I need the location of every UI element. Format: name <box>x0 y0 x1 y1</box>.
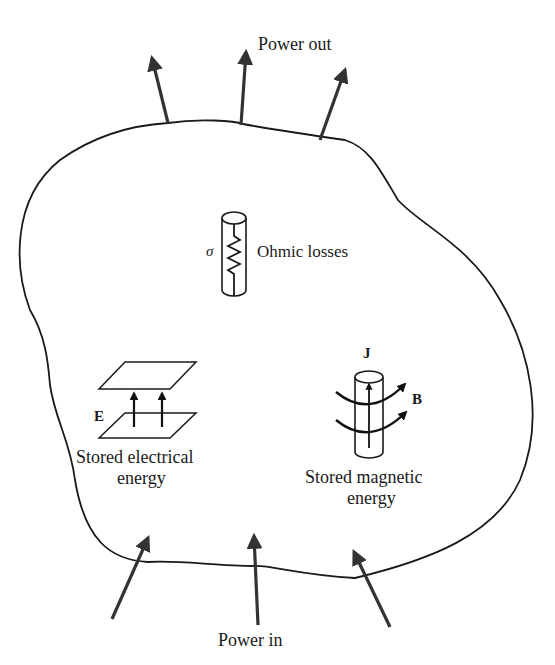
energy-flow-diagram: Power out Power in σ Ohmic losses E Stor… <box>0 0 555 665</box>
power-out-arrows <box>152 52 345 140</box>
arrow-out-1 <box>152 58 168 123</box>
arrow-out-2 <box>241 52 246 125</box>
arrow-out-3 <box>320 70 345 140</box>
e-field-label: E <box>94 408 104 424</box>
magnetic-field-label: B <box>412 391 422 407</box>
stored-electrical-label-1: Stored electrical <box>76 447 193 467</box>
stored-magnetic-label-1: Stored magnetic <box>305 467 422 487</box>
resistor-cylinder-icon <box>222 212 246 296</box>
volume-boundary <box>20 120 533 578</box>
capacitor-plates-icon <box>99 362 196 438</box>
stored-electrical-label-2: energy <box>117 468 166 488</box>
arrow-in-2 <box>254 536 258 625</box>
sigma-label: σ <box>206 243 214 259</box>
ohmic-losses-label: Ohmic losses <box>257 242 348 261</box>
power-in-arrows <box>112 536 390 627</box>
arrow-in-1 <box>112 538 148 619</box>
power-in-label: Power in <box>218 630 283 650</box>
arrow-in-3 <box>354 552 390 627</box>
current-cylinder-icon <box>336 371 406 458</box>
stored-magnetic-label-2: energy <box>347 488 396 508</box>
power-out-label: Power out <box>258 34 332 54</box>
current-density-label: J <box>363 345 371 361</box>
